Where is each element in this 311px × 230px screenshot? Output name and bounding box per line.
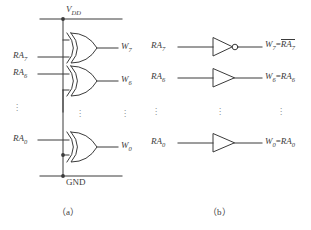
ellipsis-gates-a: ... [79, 107, 81, 117]
caption-panel-a: （a） [57, 205, 79, 218]
vdd-label: VDD [66, 5, 81, 16]
input-label-b-ra6: RA6 [151, 72, 165, 83]
inverter-gate-body-row1 [213, 38, 232, 56]
ellipsis-inputs-b: ... [155, 105, 157, 115]
inverter-bubble-icon [232, 44, 238, 50]
input-label-ra6: RA6 [13, 68, 27, 79]
gnd-bus-junction-dot-row3 [61, 153, 65, 157]
buffer-gate-body-row2 [213, 69, 234, 87]
input-label-ra7: RA7 [13, 51, 27, 62]
ellipsis-outputs-b: ... [280, 105, 282, 115]
output-label-w6: W6 [121, 75, 132, 86]
xor-gate-arc-row1 [67, 33, 74, 63]
ellipsis-inputs-a: ... [16, 101, 18, 111]
xor-gate-body-row2 [71, 66, 97, 96]
input-label-b-ra7: RA7 [151, 41, 165, 52]
ellipsis-outputs-a: ... [124, 107, 126, 117]
output-label-w0: W0 [121, 141, 132, 152]
xor-gate-arc-row2 [67, 66, 74, 96]
output-expr-w6: W6=RA6 [265, 72, 295, 83]
gnd-label: GND [66, 178, 86, 187]
xor-gate-body-row1 [71, 33, 97, 63]
output-expr-w0: W0=RA0 [265, 137, 295, 148]
input-label-ra0: RA0 [13, 134, 27, 145]
buffer-gate-body-row3 [213, 134, 234, 152]
xor-gate-arc-row3 [67, 132, 74, 162]
output-label-w7: W7 [121, 42, 132, 53]
caption-panel-b: （b） [208, 205, 231, 218]
gnd-junction-dot [61, 174, 65, 178]
input-label-b-ra0: RA0 [151, 137, 165, 148]
circuit-figure: VDD GND RA7 RA6 RA0 W7 W6 W0 ... ... ...… [0, 0, 311, 230]
output-expr-w7: W7=RA7 [265, 39, 295, 52]
xor-gate-body-row3 [71, 132, 97, 162]
ellipsis-gates-b: ... [219, 105, 221, 115]
